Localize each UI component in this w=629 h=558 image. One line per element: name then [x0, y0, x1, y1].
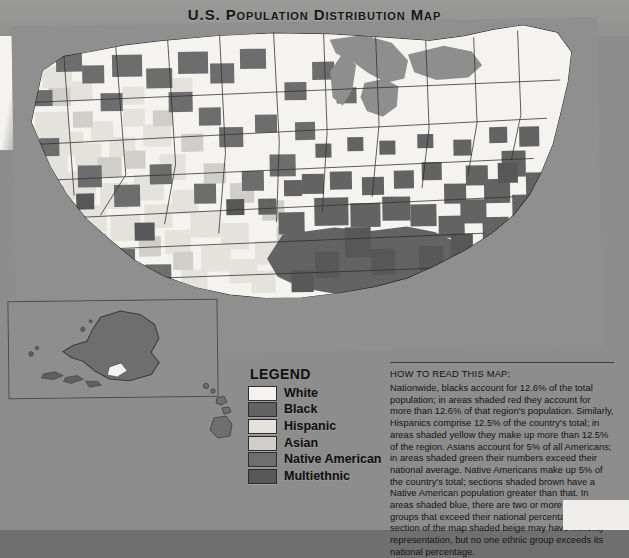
page-margin-bottom-right — [563, 500, 629, 530]
legend-label-white: White — [284, 387, 318, 400]
legend-item-asian: Asian — [248, 435, 388, 452]
legend-heading: LEGEND — [250, 366, 388, 382]
howto-body-text: Nationwide, blacks account for 12.6% of … — [390, 382, 614, 558]
legend-swatch-asian — [248, 436, 277, 451]
legend: LEGEND White Black Hispanic Asian Native… — [248, 366, 388, 485]
legend-swatch-native-american — [248, 452, 277, 467]
howto-heading: HOW TO READ THIS MAP: — [390, 368, 614, 380]
legend-item-hispanic: Hispanic — [248, 418, 388, 435]
legend-label-black: Black — [284, 403, 317, 416]
legend-label-native-american: Native American — [284, 453, 382, 466]
legend-item-multiethnic: Multiethnic — [248, 468, 388, 485]
legend-item-native-american: Native American — [248, 451, 388, 468]
legend-item-black: Black — [248, 402, 388, 419]
legend-swatch-hispanic — [248, 419, 277, 434]
legend-item-white: White — [248, 385, 388, 402]
legend-label-asian: Asian — [284, 437, 318, 450]
legend-swatch-multiethnic — [248, 469, 277, 484]
legend-swatch-white — [248, 386, 277, 401]
legend-label-hispanic: Hispanic — [284, 420, 336, 433]
legend-swatch-black — [248, 402, 277, 417]
legend-label-multiethnic: Multiethnic — [284, 470, 350, 483]
howto-divider — [390, 362, 614, 363]
